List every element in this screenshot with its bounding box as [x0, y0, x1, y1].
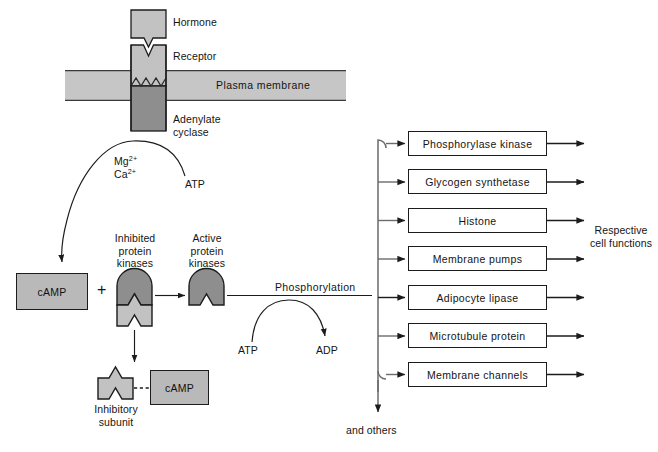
effector-label: Adipocyte lipase	[436, 292, 518, 304]
effector-label: Membrane pumps	[433, 253, 523, 265]
ca-symbol: Ca	[114, 168, 128, 180]
effector-box-phosphorylase-kinase: Phosphorylase kinase	[408, 131, 547, 156]
effector-box-histone: Histone	[408, 208, 547, 233]
effector-box-membrane-channels: Membrane channels	[408, 362, 547, 387]
adenylate-cyclase-label: Adenylatecyclase	[173, 113, 221, 138]
effector-trunk-bottom-bend	[378, 371, 386, 379]
plasma-membrane-label: Plasma membrane	[216, 79, 310, 92]
inhibited-kinases-label: Inhibitedproteinkinases	[99, 232, 171, 270]
effector-label: Microtubule protein	[430, 330, 526, 342]
atp-bottom-label: ATP	[238, 344, 258, 357]
effector-box-membrane-pumps: Membrane pumps	[408, 246, 547, 271]
respective-cell-functions-label: Respectivecell functions	[583, 224, 658, 249]
camp-bound-label: cAMP	[165, 382, 194, 394]
adenylate-line-2: cyclase	[173, 126, 209, 138]
inhibitory-subunit-label: Inhibitorysubunit	[80, 403, 152, 428]
adenylate-cyclase-shape	[131, 86, 166, 131]
effector-label: Glycogen synthetase	[425, 176, 530, 188]
effector-box-glycogen-synthetase: Glycogen synthetase	[408, 169, 547, 194]
camp-free-label: cAMP	[37, 286, 66, 298]
plus-sign: +	[97, 284, 106, 297]
effector-label: Phosphorylase kinase	[423, 138, 533, 150]
effector-distribution-trunk	[378, 140, 386, 392]
and-others-label: and others	[346, 424, 397, 437]
diagram-graphics	[0, 0, 658, 452]
mg-charge: 2+	[129, 154, 137, 163]
active-kinase-shape	[189, 269, 224, 306]
hormone-label: Hormone	[173, 16, 217, 29]
effector-box-adipocyte-lipase: Adipocyte lipase	[408, 285, 547, 310]
diagram-canvas: cAMP cAMP Phosphorylase kinase Glycogen …	[0, 0, 658, 452]
effector-box-microtubule-protein: Microtubule protein	[408, 323, 547, 348]
effector-label: Membrane channels	[427, 369, 528, 381]
atp-top-label: ATP	[185, 178, 205, 191]
atp-to-adp-arrow	[252, 300, 325, 342]
adenylate-line-1: Adenylate	[173, 113, 221, 125]
adp-label: ADP	[316, 344, 338, 357]
camp-free-box: cAMP	[16, 273, 88, 310]
camp-bound-box: cAMP	[150, 370, 209, 405]
receptor-label: Receptor	[173, 50, 216, 63]
mg-symbol: Mg	[114, 155, 129, 167]
active-kinases-label: Activeproteinkinases	[171, 232, 243, 270]
phosphorylation-label: Phosphorylation	[275, 281, 356, 294]
free-inhibitory-subunit-shape	[98, 367, 133, 399]
ca-charge: 2+	[128, 167, 136, 176]
ca-ion-label: Ca2+	[114, 168, 136, 181]
receptor-shape	[131, 45, 166, 86]
effector-label: Histone	[458, 215, 496, 227]
hormone-shape	[131, 10, 166, 47]
